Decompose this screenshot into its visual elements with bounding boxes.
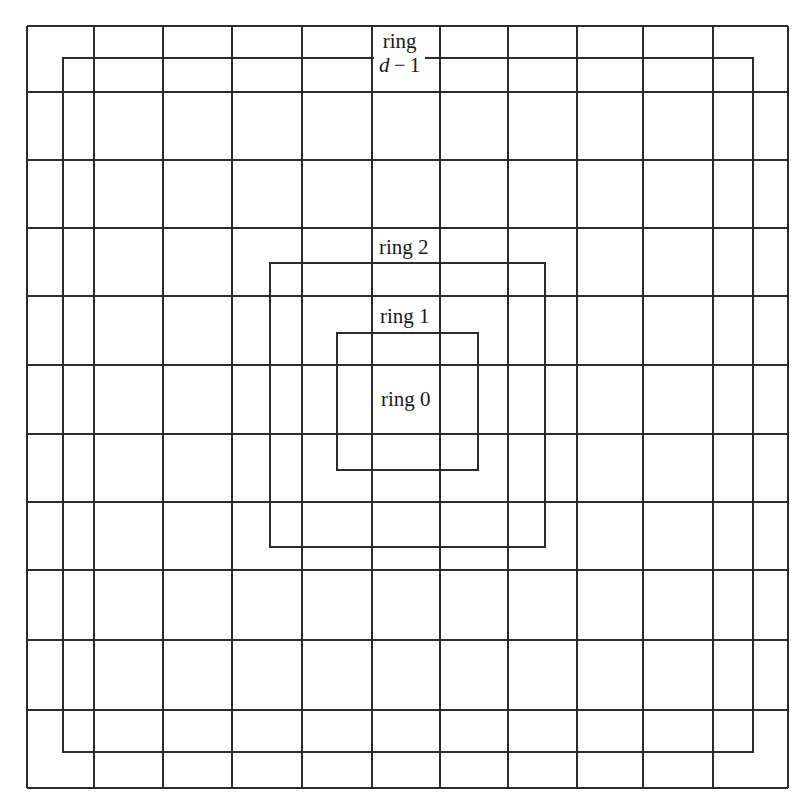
- ring-label-0: ring 0: [376, 387, 436, 411]
- ring-label-2: ring 2: [374, 235, 434, 259]
- ring-label-d-minus-1-suffix: − 1: [390, 53, 421, 77]
- ring-label-d-minus-1-line1: ring: [383, 29, 417, 53]
- ring-label-d-minus-1-variable: d: [379, 53, 390, 77]
- ring-label-d-minus-1: ring d − 1: [374, 29, 425, 77]
- ring-label-d-minus-1-line2: d − 1: [379, 53, 420, 77]
- ring-label-1: ring 1: [375, 304, 435, 328]
- nested-rings-diagram: ring d − 1 ring 2 ring 1 ring 0: [0, 0, 810, 807]
